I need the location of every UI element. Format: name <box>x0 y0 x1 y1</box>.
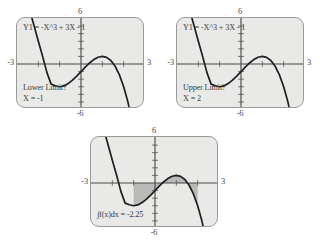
value-label: X = -1 <box>23 94 44 103</box>
integral-result-label: ∫f(x)dx = -2.25 <box>97 210 143 219</box>
value-label: X = 2 <box>183 94 201 103</box>
axis-label-top: 6 <box>238 6 242 16</box>
panel-lower-limit: 6 -6 -3 3 <box>0 0 160 123</box>
calculator-screen[interactable]: Y1 = -X^3 + 3X - 1 Lower Limit? X = -1 <box>16 17 144 108</box>
calculator-screen[interactable]: Y1 = -X^3 + 3X - 1 Upper Limit? X = 2 <box>176 17 304 108</box>
axis-label-bottom: -6 <box>151 227 158 237</box>
panel-upper-limit: 6 -6 -3 3 <box>160 0 320 123</box>
axis-label-top: 6 <box>78 6 82 16</box>
prompt-label: Upper Limit? <box>183 83 226 92</box>
axis-label-right: 3 <box>147 57 151 67</box>
axis-label-left: -3 <box>81 176 88 186</box>
axis-label-bottom: -6 <box>237 108 244 118</box>
prompt-label: Lower Limit? <box>23 83 66 92</box>
equation-label: Y1 = -X^3 + 3X - 1 <box>23 23 85 32</box>
axis-label-top: 6 <box>152 125 156 135</box>
axis-label-bottom: -6 <box>77 108 84 118</box>
axis-label-left: -3 <box>167 57 174 67</box>
equation-label: Y1 = -X^3 + 3X - 1 <box>183 23 245 32</box>
axis-label-left: -3 <box>7 57 14 67</box>
axis-label-right: 3 <box>307 57 311 67</box>
panel-result: 6 -6 -3 3 <box>74 119 234 245</box>
calculator-screen[interactable]: ∫f(x)dx = -2.25 <box>90 136 218 227</box>
axis-label-right: 3 <box>221 176 225 186</box>
